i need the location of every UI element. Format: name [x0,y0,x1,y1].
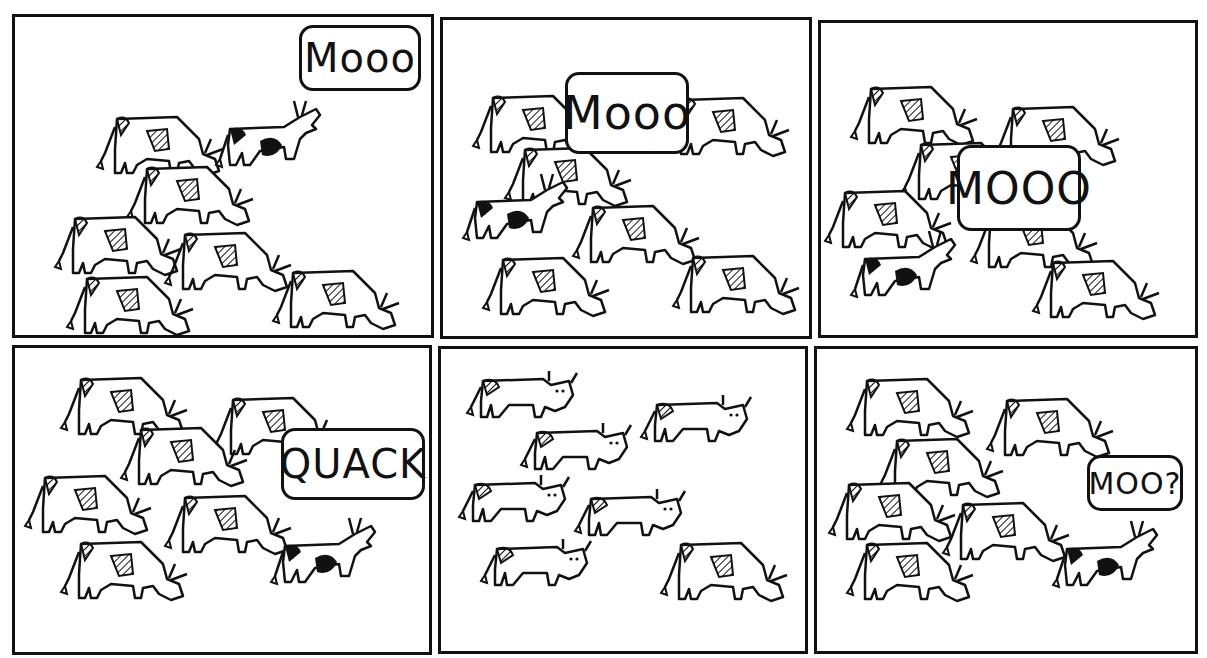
speech-text: QUACK [280,441,427,487]
speech-bubble: Mooo [565,72,689,154]
cow-herd-illustration [15,348,429,652]
cow-herd-illustration [441,349,805,651]
speech-text: Mooo [304,35,416,81]
speech-text: MOOO [946,163,1092,214]
speech-text: Mooo [563,86,691,140]
comic-panel-1: Mooo [12,14,434,338]
comic-panel-5 [438,346,808,654]
speech-bubble: MOO? [1087,455,1183,511]
comic-panel-6: MOO? [814,346,1198,654]
comic-panel-2: Mooo [440,17,812,339]
comic-panel-3: MOOO [818,20,1198,338]
speech-bubble: Mooo [299,25,421,91]
speech-text: MOO? [1088,466,1181,501]
cow-herd-illustration [443,20,809,336]
comic-panel-4: QUACK [12,345,432,655]
speech-bubble: QUACK [281,428,425,500]
speech-bubble: MOOO [957,145,1081,231]
